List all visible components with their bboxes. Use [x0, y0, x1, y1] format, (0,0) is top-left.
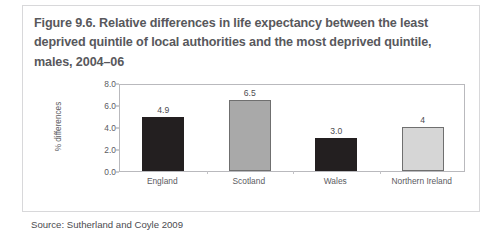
bar-chart: % differences 0.02.04.06.08.0 4.96.53.04…: [34, 84, 470, 202]
bar: [142, 117, 184, 171]
y-axis-tick-labels: 0.02.04.06.08.0: [84, 84, 116, 172]
y-axis-tick-mark: [116, 84, 119, 85]
x-axis-tick-mark: [380, 171, 381, 174]
y-axis-tick-mark: [116, 128, 119, 129]
x-axis-category-label: Scotland: [232, 176, 265, 186]
bar-group: 4: [380, 85, 467, 171]
bar-value-label: 4: [420, 115, 425, 125]
plot-frame: 4.96.53.04: [119, 84, 465, 172]
y-axis-tick-label: 4.0: [90, 123, 116, 133]
bar-value-label: 6.5: [244, 88, 256, 98]
bars-layer: 4.96.53.04: [120, 85, 464, 171]
figure-title: Figure 9.6. Relative differences in life…: [34, 14, 470, 72]
bar: [229, 100, 271, 172]
y-axis-tick-mark: [116, 106, 119, 107]
bar-group: 6.5: [207, 85, 294, 171]
x-axis-category-label: Northern Ireland: [391, 176, 452, 186]
bar-value-label: 4.9: [157, 105, 169, 115]
y-axis-tick-mark: [116, 150, 119, 151]
y-axis-title: % differences: [54, 82, 63, 172]
bar-value-label: 3.0: [330, 126, 342, 136]
y-axis-tick-mark: [116, 172, 119, 173]
bar-group: 4.9: [120, 85, 207, 171]
x-axis-category-label: England: [147, 176, 178, 186]
x-axis-category-labels: EnglandScotlandWalesNorthern Ireland: [119, 176, 465, 192]
source-note: Source: Sutherland and Coyle 2009: [31, 219, 183, 230]
y-axis-tick-label: 0.0: [90, 167, 116, 177]
x-axis-tick-mark: [293, 171, 294, 174]
x-axis-tick-mark: [207, 171, 208, 174]
bar: [402, 127, 444, 171]
y-axis-tick-label: 6.0: [90, 101, 116, 111]
bar: [315, 138, 357, 171]
y-axis-tick-label: 2.0: [90, 145, 116, 155]
y-axis-tick-label: 8.0: [90, 79, 116, 89]
bar-group: 3.0: [293, 85, 380, 171]
x-axis-category-label: Wales: [324, 176, 347, 186]
figure-card: Figure 9.6. Relative differences in life…: [22, 5, 480, 212]
